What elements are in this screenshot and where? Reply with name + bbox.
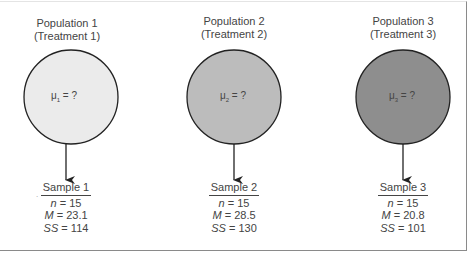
population-1-mean: μ1 = ? — [34, 90, 94, 103]
population-2-title: Population 2 (Treatment 2) — [174, 15, 294, 41]
sample-3-mean: M = 20.8 — [358, 209, 448, 222]
sample-1-name: Sample 1 — [41, 181, 91, 196]
population-2-label: Population 2 — [174, 15, 294, 28]
sample-3-name: Sample 3 — [378, 181, 428, 196]
sample-3-stats: Sample 3 n = 15 M = 20.8 SS = 101 — [358, 181, 448, 234]
population-3-title: Population 3 (Treatment 3) — [343, 15, 463, 41]
sample-1-stats: Sample 1 n = 15 M = 23.1 SS = 114 — [21, 181, 111, 234]
sample-2-stats: Sample 2 n = 15 M = 28.5 SS = 130 — [189, 181, 279, 234]
sample-2-n: n = 15 — [189, 197, 279, 210]
population-3-mean: μ3 = ? — [372, 90, 432, 103]
population-1-treatment: (Treatment 1) — [7, 30, 127, 43]
population-3-label: Population 3 — [343, 15, 463, 28]
sample-1-mean: M = 23.1 — [21, 209, 111, 222]
population-1-label: Population 1 — [7, 17, 127, 30]
population-2-mean: μ2 = ? — [203, 90, 263, 103]
sample-2-mean: M = 28.5 — [189, 209, 279, 222]
sample-2-ss: SS = 130 — [189, 222, 279, 235]
population-3-treatment: (Treatment 3) — [343, 28, 463, 41]
sample-2-name: Sample 2 — [209, 181, 259, 196]
sample-3-ss: SS = 101 — [358, 222, 448, 235]
sample-1-n: n = 15 — [21, 197, 111, 210]
sample-1-ss: SS = 114 — [21, 222, 111, 235]
population-2-treatment: (Treatment 2) — [174, 28, 294, 41]
sample-3-n: n = 15 — [358, 197, 448, 210]
population-1-title: Population 1 (Treatment 1) — [7, 17, 127, 43]
